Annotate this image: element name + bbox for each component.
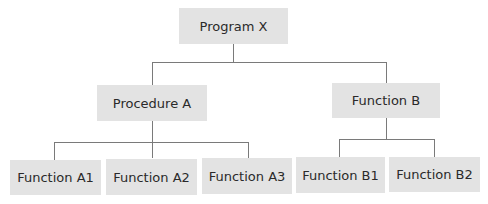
- connector-a-children-bar: [54, 142, 248, 143]
- node-function-a1: Function A1: [10, 160, 101, 195]
- connector-to-function-a3: [248, 142, 249, 158]
- node-program-x: Program X: [179, 8, 288, 44]
- connector-to-function-b2: [434, 139, 435, 157]
- connector-to-function-b: [386, 62, 387, 83]
- connector-root-down: [233, 44, 234, 63]
- connector-to-procedure-a: [152, 62, 153, 85]
- connector-b-children-bar: [339, 139, 435, 140]
- connector-procedure-a-down: [152, 121, 153, 158]
- node-procedure-a: Procedure A: [97, 85, 207, 121]
- connector-to-function-a1: [54, 142, 55, 160]
- node-function-a2: Function A2: [106, 159, 197, 195]
- connector-function-b-down: [386, 118, 387, 140]
- node-function-b: Function B: [332, 83, 440, 118]
- node-function-a3: Function A3: [202, 158, 292, 194]
- connector-level1-bar: [152, 62, 387, 63]
- node-function-b2: Function B2: [389, 157, 480, 192]
- node-function-b1: Function B1: [296, 157, 385, 193]
- connector-to-function-b1: [339, 139, 340, 157]
